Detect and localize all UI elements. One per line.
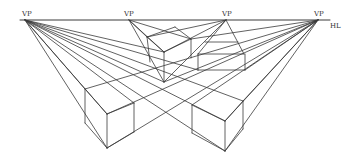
vp3-construction-lines [147, 20, 244, 82]
vp-label-2: VP [124, 11, 134, 18]
vp-label-4: VP [314, 11, 324, 18]
hl-label: HL [330, 23, 341, 30]
lower-right-box [192, 101, 243, 151]
vp-label-1: VP [22, 11, 32, 18]
perspective-diagram [0, 0, 357, 165]
vp-label-3: VP [222, 11, 232, 18]
